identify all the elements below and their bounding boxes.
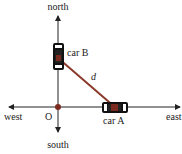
car-a-icon (102, 102, 128, 113)
car-b-icon (53, 43, 64, 70)
origin-label: O (45, 111, 52, 122)
east-label: east (166, 111, 182, 122)
distance-label: d (91, 71, 97, 82)
west-label: west (4, 111, 23, 122)
car-b-label: car B (67, 47, 89, 58)
distance-line (58, 58, 116, 108)
origin-dot (55, 104, 61, 110)
relative-motion-diagram: north south west east O car B car A d (0, 0, 182, 154)
car-a-label: car A (103, 115, 125, 126)
north-label: north (47, 1, 68, 12)
south-label: south (47, 139, 69, 150)
